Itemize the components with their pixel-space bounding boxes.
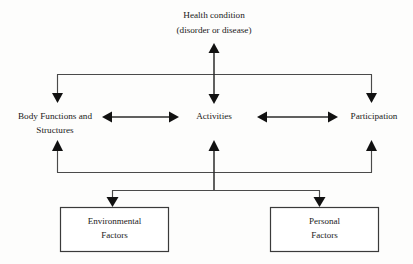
body-functions-line1: Body Functions and: [18, 111, 92, 121]
arrowhead-down-to-personal-factors: [314, 197, 326, 207]
node-environmental-factors: Environmental Factors: [61, 208, 169, 252]
bottom-connector-group: [52, 140, 377, 207]
arrowhead-down-to-participation: [366, 93, 377, 103]
node-personal-factors: Personal Factors: [271, 208, 379, 252]
arrowhead-down-to-activities: [209, 94, 220, 104]
activities-label: Activities: [196, 111, 232, 121]
health-condition-line1: Health condition: [183, 10, 245, 20]
personal-factors-line2: Factors: [311, 230, 338, 240]
arrowhead-up-to-health-condition: [209, 43, 220, 53]
personal-factors-line1: Personal: [309, 216, 340, 226]
node-activities: Activities: [196, 111, 232, 121]
arrowhead-right-activities-participation: [328, 112, 338, 123]
arrowhead-up-to-activities: [209, 140, 220, 151]
arrowhead-down-to-body-functions: [52, 93, 63, 103]
environmental-factors-line1: Environmental: [88, 216, 142, 226]
arrowhead-left-body-activities: [102, 112, 112, 123]
arrowhead-up-to-participation: [366, 140, 377, 151]
body-functions-line2: Structures: [36, 125, 74, 135]
node-participation: Participation: [351, 111, 398, 121]
participation-label: Participation: [351, 111, 398, 121]
node-health-condition: Health condition (disorder or disease): [176, 10, 251, 35]
environmental-factors-line2: Factors: [101, 230, 128, 240]
node-body-functions-structures: Body Functions and Structures: [18, 111, 92, 135]
icf-model-diagram: Health condition (disorder or disease) B…: [0, 0, 413, 264]
diagram-canvas: Health condition (disorder or disease) B…: [0, 0, 413, 264]
arrowhead-left-activities-participation: [257, 112, 267, 123]
arrowhead-up-to-body-functions: [52, 140, 63, 151]
arrowhead-down-to-environmental-factors: [107, 197, 119, 207]
arrowhead-right-body-activities: [169, 112, 179, 123]
top-connector-group: [52, 43, 377, 104]
health-condition-line2: (disorder or disease): [176, 25, 251, 35]
